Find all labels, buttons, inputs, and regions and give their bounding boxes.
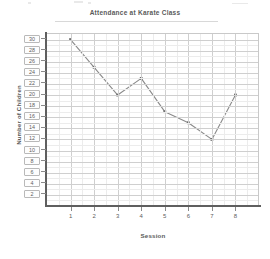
y-axis-tick: [41, 71, 46, 72]
scan-artifact: [28, 2, 31, 4]
x-axis-tick: [188, 207, 189, 211]
x-axis-tick: [71, 207, 72, 211]
gridline-horizontal: [47, 156, 258, 157]
y-axis-tick-label: 22: [24, 79, 40, 87]
y-axis-tick-label: 16: [24, 112, 40, 120]
title-underline: [55, 21, 218, 22]
y-axis-tick-label: 30: [24, 35, 40, 43]
y-axis-tick: [41, 127, 46, 128]
gridline-horizontal: [47, 167, 258, 168]
gridline-vertical: [224, 34, 225, 205]
y-axis-tick-label: 14: [24, 123, 40, 131]
y-axis-tick: [41, 82, 46, 83]
x-axis-tick: [118, 207, 119, 211]
attendance-line-chart: Attendance at Karate Class Number of Chi…: [0, 0, 270, 259]
gridline-horizontal: [47, 134, 258, 135]
x-axis-line: [45, 205, 261, 207]
gridline-horizontal: [47, 62, 258, 63]
chart-title: Attendance at Karate Class: [0, 9, 270, 16]
gridline-horizontal: [47, 101, 258, 102]
y-axis-tick: [41, 171, 46, 172]
scan-artifact: [74, 1, 83, 3]
gridline-horizontal: [47, 67, 258, 68]
x-axis-tick: [212, 207, 213, 211]
x-axis-title: Session: [45, 232, 261, 239]
y-axis-tick: [41, 38, 46, 39]
x-axis-tick-label: 5: [158, 213, 172, 219]
gridline-horizontal: [47, 162, 258, 163]
y-axis-tick-label: 10: [24, 146, 40, 154]
gridline-horizontal: [47, 173, 258, 174]
scan-artifact: [232, 3, 248, 4]
gridline-vertical: [247, 34, 248, 205]
gridline-horizontal: [47, 78, 258, 79]
y-axis-tick: [41, 182, 46, 183]
gridline-vertical: [153, 34, 154, 205]
x-axis-tick-label: 2: [87, 213, 101, 219]
y-axis-tick: [41, 116, 46, 117]
y-axis-tick-label: 18: [24, 101, 40, 109]
y-axis-tick: [41, 94, 46, 95]
gridline-horizontal: [47, 123, 258, 124]
plot-area: [47, 33, 259, 205]
gridline-vertical: [118, 34, 119, 205]
gridline-vertical: [212, 34, 213, 205]
y-axis-tick-label: 6: [24, 168, 40, 176]
x-axis-tick: [165, 207, 166, 211]
gridline-vertical: [188, 34, 189, 205]
gridline-vertical: [82, 34, 83, 205]
x-axis-tick: [94, 207, 95, 211]
gridline-vertical: [141, 34, 142, 205]
x-axis-tick-label: 7: [205, 213, 219, 219]
gridline-vertical: [71, 34, 72, 205]
x-axis-tick: [141, 207, 142, 211]
y-axis-tick: [41, 193, 46, 194]
gridline-horizontal: [47, 151, 258, 152]
gridline-horizontal: [47, 73, 258, 74]
x-axis-tick-label: 3: [111, 213, 125, 219]
gridline-vertical: [165, 34, 166, 205]
x-axis-tick-label: 4: [134, 213, 148, 219]
gridline-horizontal: [47, 117, 258, 118]
y-axis-tick-label: 12: [24, 134, 40, 142]
gridline-vertical: [106, 34, 107, 205]
gridline-horizontal: [47, 106, 258, 107]
y-axis-tick: [41, 105, 46, 106]
y-axis-tick-label: 4: [24, 179, 40, 187]
y-axis-tick: [41, 149, 46, 150]
y-axis-tick-label: 26: [24, 57, 40, 65]
gridline-horizontal: [47, 139, 258, 140]
gridline-horizontal: [47, 51, 258, 52]
gridline-vertical: [59, 34, 60, 205]
gridline-horizontal: [47, 95, 258, 96]
gridline-horizontal: [47, 178, 258, 179]
y-axis-tick-label: 8: [24, 157, 40, 165]
gridline-vertical: [94, 34, 95, 205]
y-axis-tick-label: 20: [24, 90, 40, 98]
y-axis-tick: [41, 160, 46, 161]
gridline-horizontal: [47, 200, 258, 201]
y-axis-tick-label: 2: [24, 190, 40, 198]
y-axis-tick-label: 24: [24, 68, 40, 76]
gridline-horizontal: [47, 128, 258, 129]
x-axis-tick: [235, 207, 236, 211]
gridline-vertical: [235, 34, 236, 205]
scan-artifact: [88, 2, 91, 4]
y-axis-tick: [41, 138, 46, 139]
y-axis-tick-labels: 30282624222018161412108642: [24, 33, 44, 203]
gridline-horizontal: [47, 56, 258, 57]
gridline-vertical: [129, 34, 130, 205]
x-axis-tick-label: 1: [64, 213, 78, 219]
gridline-vertical: [177, 34, 178, 205]
x-axis-tick-label: 8: [228, 213, 242, 219]
gridline-horizontal: [47, 84, 258, 85]
y-axis-tick-label: 28: [24, 46, 40, 54]
gridline-horizontal: [47, 89, 258, 90]
gridline-horizontal: [47, 45, 258, 46]
gridline-horizontal: [47, 184, 258, 185]
gridline-horizontal: [47, 195, 258, 196]
gridline-horizontal: [47, 145, 258, 146]
gridline-horizontal: [47, 112, 258, 113]
y-axis-tick: [41, 49, 46, 50]
y-axis-tick: [41, 60, 46, 61]
